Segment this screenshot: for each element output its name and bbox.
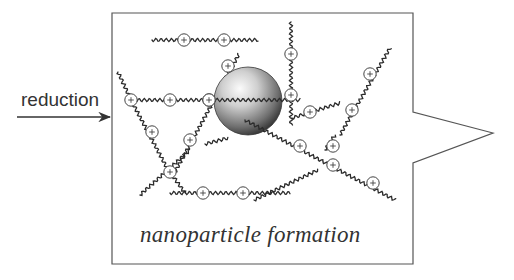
polymer-chain-sphere-small-left — [205, 137, 228, 145]
plus-bead-icon — [364, 68, 376, 80]
plus-bead-icon — [222, 60, 234, 72]
diagram-canvas: reduction nanoparticle formation — [0, 0, 514, 280]
plus-bead-icon — [184, 134, 196, 146]
reduction-label: reduction — [21, 89, 99, 111]
plus-bead-icon — [327, 159, 339, 171]
plus-bead-icon — [146, 126, 158, 138]
plus-bead-icon — [164, 94, 176, 106]
plus-bead-icon — [294, 140, 306, 152]
caption-label: nanoparticle formation — [140, 222, 361, 248]
plus-bead-icon — [203, 94, 215, 106]
plus-bead-icon — [178, 34, 190, 46]
plus-bead-icon — [285, 89, 297, 101]
plus-bead-icon — [367, 177, 379, 189]
polymer-chain-top — [152, 38, 258, 41]
plus-bead-icon — [164, 166, 176, 178]
polymer-chain-right-diag — [340, 49, 391, 135]
plus-bead-icon — [197, 187, 209, 199]
plus-bead-icon — [327, 140, 339, 152]
plus-bead-icon — [346, 104, 358, 116]
polymer-chain-vertical-right — [289, 22, 292, 125]
plus-bead-icon — [285, 48, 297, 60]
plus-bead-icon — [237, 187, 249, 199]
polymer-chain-lower-left-chain — [254, 169, 318, 201]
plus-bead-icon — [125, 94, 137, 106]
polymer-chain-bottom — [170, 191, 290, 194]
plus-bead-icon — [218, 34, 230, 46]
plus-bead-icon — [304, 106, 316, 118]
